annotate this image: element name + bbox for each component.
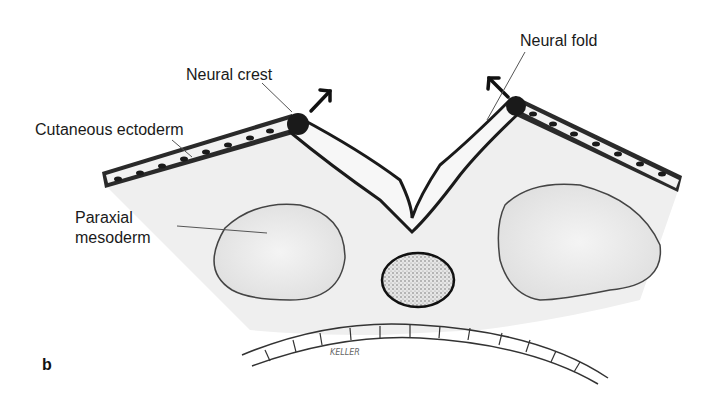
panel-letter: b bbox=[42, 356, 52, 374]
label-neural-crest: Neural crest bbox=[186, 65, 272, 84]
arrow-up-right-icon bbox=[311, 90, 330, 111]
label-paraxial-mesoderm-line1: Paraxial bbox=[75, 208, 133, 227]
neural-tube-diagram: Neural crest Neural fold Cutaneous ectod… bbox=[0, 0, 715, 401]
label-paraxial-mesoderm-line2: mesoderm bbox=[75, 228, 151, 247]
label-neural-fold: Neural fold bbox=[520, 31, 597, 50]
label-cutaneous-ectoderm: Cutaneous ectoderm bbox=[35, 120, 184, 139]
neural-crest-right bbox=[506, 96, 526, 116]
artist-signature: KELLER bbox=[330, 348, 360, 357]
neural-crest-left bbox=[287, 113, 309, 135]
diagram-drawing bbox=[0, 0, 715, 401]
notochord bbox=[382, 253, 454, 307]
